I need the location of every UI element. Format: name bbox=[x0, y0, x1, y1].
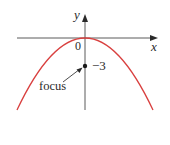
origin-label: 0 bbox=[75, 40, 81, 52]
diagram-canvas bbox=[0, 0, 170, 145]
x-axis-label: x bbox=[151, 40, 157, 53]
focus-pointer-arrow-icon bbox=[77, 68, 83, 74]
y-axis-label: y bbox=[74, 8, 80, 21]
focus-point bbox=[83, 64, 87, 68]
focus-annotation-label: focus bbox=[39, 80, 66, 93]
y-axis-arrow-icon bbox=[82, 14, 88, 22]
focus-value-label: −3 bbox=[92, 59, 106, 72]
parabola-diagram: y x 0 −3 focus bbox=[0, 0, 170, 145]
